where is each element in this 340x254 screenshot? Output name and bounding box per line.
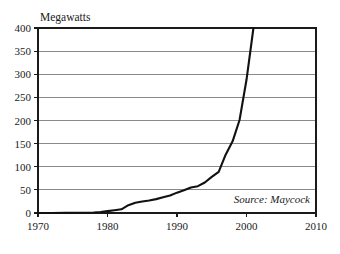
y-tick-label: 100 (15, 161, 32, 173)
chart-background (0, 0, 340, 254)
x-tick-label: 1970 (27, 220, 50, 232)
y-tick-label: 0 (26, 207, 32, 219)
x-tick-label: 1990 (166, 220, 189, 232)
megawatts-line-chart: 050100150200250300350400 197019801990200… (0, 0, 340, 254)
x-tick-label: 2000 (236, 220, 259, 232)
chart-figure: 050100150200250300350400 197019801990200… (0, 0, 340, 254)
y-tick-label: 350 (15, 45, 32, 57)
source-annotation: Source: Maycock (234, 193, 311, 205)
y-tick-label: 400 (15, 22, 32, 34)
y-tick-label: 200 (15, 115, 32, 127)
x-tick-label: 2010 (305, 220, 328, 232)
y-tick-label: 50 (20, 184, 32, 196)
y-tick-label: 150 (15, 138, 32, 150)
y-tick-label: 300 (15, 68, 32, 80)
x-tick-label: 1980 (97, 220, 120, 232)
y-tick-label: 250 (15, 91, 32, 103)
y-axis-title: Megawatts (40, 11, 91, 24)
